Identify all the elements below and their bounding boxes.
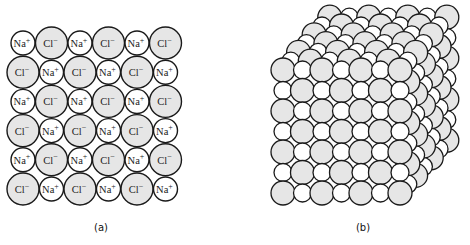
sodium-ion-sphere: [352, 123, 370, 141]
sodium-ion-sphere: [294, 102, 312, 120]
chloride-ion-sphere: [388, 99, 412, 123]
sodium-ion: Na+: [40, 177, 64, 201]
sodium-ion: Na+: [97, 119, 121, 143]
chloride-ion-sphere: [310, 58, 334, 82]
chloride-ion-sphere: [388, 181, 412, 205]
chloride-ion-sphere: [349, 140, 373, 164]
sodium-ion: Na+: [154, 177, 178, 201]
chloride-ion-sphere: [271, 140, 295, 164]
chloride-ion: Cl−: [7, 115, 39, 147]
chloride-ion: Cl−: [64, 56, 96, 88]
chloride-ion-sphere: [310, 181, 334, 205]
nacl-lattice-figure: Na+Cl−Na+Cl−Na+Cl−Cl−Na+Cl−Na+Cl−Na+Na+C…: [0, 0, 470, 245]
panel-b-label: (b): [356, 222, 370, 233]
chloride-ion: Cl−: [150, 27, 182, 59]
sodium-ion: Na+: [154, 119, 178, 143]
sodium-ion: Na+: [11, 89, 35, 113]
sodium-ion: Na+: [125, 89, 149, 113]
chloride-ion-sphere: [271, 99, 295, 123]
sodium-ion: Na+: [68, 31, 92, 55]
chloride-ion-sphere: [271, 58, 295, 82]
sodium-ion-sphere: [372, 143, 390, 161]
chloride-ion: Cl−: [121, 56, 153, 88]
sodium-ion-sphere: [352, 82, 370, 100]
sodium-ion-sphere: [274, 164, 292, 182]
panel-a-2d-lattice: Na+Cl−Na+Cl−Na+Cl−Cl−Na+Cl−Na+Cl−Na+Na+C…: [7, 27, 182, 205]
chloride-ion-sphere: [349, 181, 373, 205]
chloride-ion: Cl−: [150, 85, 182, 117]
chloride-ion: Cl−: [93, 27, 125, 59]
chloride-ion: Cl−: [7, 173, 39, 205]
sodium-ion: Na+: [11, 148, 35, 172]
sodium-ion: Na+: [11, 31, 35, 55]
panel-a-label: (a): [94, 222, 108, 233]
chloride-ion-sphere: [349, 99, 373, 123]
sodium-ion: Na+: [125, 148, 149, 172]
sodium-ion-sphere: [294, 143, 312, 161]
chloride-ion-sphere: [291, 161, 315, 185]
sodium-ion: Na+: [68, 148, 92, 172]
sodium-ion-sphere: [313, 82, 331, 100]
chloride-ion-sphere: [291, 79, 315, 103]
sodium-ion-sphere: [391, 164, 409, 182]
sodium-ion-sphere: [372, 102, 390, 120]
sodium-ion-sphere: [372, 61, 390, 79]
sodium-ion-sphere: [294, 61, 312, 79]
sodium-ion-sphere: [294, 184, 312, 202]
chloride-ion: Cl−: [93, 144, 125, 176]
chloride-ion-sphere: [369, 120, 393, 144]
sodium-ion: Na+: [97, 60, 121, 84]
sodium-ion-sphere: [333, 184, 351, 202]
chloride-ion: Cl−: [64, 173, 96, 205]
sodium-ion-sphere: [391, 123, 409, 141]
chloride-ion-sphere: [330, 161, 354, 185]
chloride-ion-sphere: [369, 161, 393, 185]
sodium-ion-sphere: [352, 164, 370, 182]
sodium-ion: Na+: [125, 31, 149, 55]
sodium-ion-sphere: [333, 143, 351, 161]
sodium-ion-sphere: [274, 82, 292, 100]
panel-b-3d-lattice: [271, 5, 459, 205]
sodium-ion-sphere: [391, 82, 409, 100]
chloride-ion-sphere: [291, 120, 315, 144]
sodium-ion-sphere: [333, 102, 351, 120]
chloride-ion: Cl−: [150, 144, 182, 176]
sodium-ion-sphere: [274, 123, 292, 141]
chloride-ion: Cl−: [36, 85, 68, 117]
sodium-ion: Na+: [97, 177, 121, 201]
sodium-ion-sphere: [313, 123, 331, 141]
chloride-ion-sphere: [330, 79, 354, 103]
chloride-ion: Cl−: [93, 85, 125, 117]
sodium-ion: Na+: [40, 119, 64, 143]
sodium-ion-sphere: [313, 164, 331, 182]
chloride-ion-sphere: [310, 140, 334, 164]
sodium-ion: Na+: [40, 60, 64, 84]
chloride-ion: Cl−: [36, 27, 68, 59]
chloride-ion-sphere: [310, 99, 334, 123]
chloride-ion-sphere: [271, 181, 295, 205]
chloride-ion: Cl−: [7, 56, 39, 88]
chloride-ion: Cl−: [36, 144, 68, 176]
sodium-ion-sphere: [372, 184, 390, 202]
sodium-ion: Na+: [68, 89, 92, 113]
chloride-ion-sphere: [388, 58, 412, 82]
sodium-ion: Na+: [154, 60, 178, 84]
sodium-ion-sphere: [333, 61, 351, 79]
chloride-ion: Cl−: [121, 173, 153, 205]
chloride-ion-sphere: [369, 79, 393, 103]
chloride-ion-sphere: [388, 140, 412, 164]
chloride-ion-sphere: [330, 120, 354, 144]
chloride-ion: Cl−: [64, 115, 96, 147]
chloride-ion-sphere: [349, 58, 373, 82]
chloride-ion: Cl−: [121, 115, 153, 147]
